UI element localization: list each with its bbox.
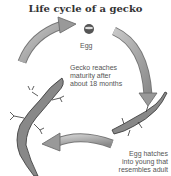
maturity-label: Gecko reaches maturity after about 18 mo… bbox=[70, 64, 122, 88]
arrow-to-egg-icon bbox=[22, 17, 76, 62]
hatch-label: Egg hatches into young that resembles ad… bbox=[119, 150, 168, 174]
egg-label: Egg bbox=[80, 42, 92, 50]
young-gecko-icon bbox=[112, 92, 167, 136]
egg-icon bbox=[84, 24, 94, 34]
adult-gecko-icon bbox=[10, 78, 64, 176]
arrow-to-mature-icon bbox=[42, 133, 112, 151]
